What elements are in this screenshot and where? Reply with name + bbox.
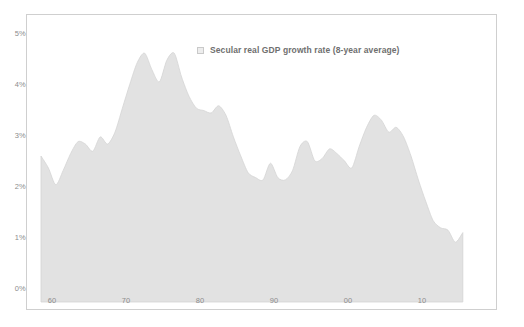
y-axis-tick-3: 3% [2, 131, 26, 140]
x-axis-tick-00: 00 [336, 296, 360, 305]
y-axis-tick-4: 4% [2, 80, 26, 89]
area-chart-svg [27, 15, 496, 309]
x-axis-tick-90: 90 [262, 296, 286, 305]
x-axis-tick-10: 10 [410, 296, 434, 305]
area-series-secular-gdp-growth [41, 53, 463, 302]
chart-plot-frame [26, 14, 497, 310]
y-axis-tick-5: 5% [2, 29, 26, 38]
y-axis-tick-0: 0% [2, 284, 26, 293]
chart-legend: Secular real GDP growth rate (8-year ave… [197, 45, 400, 55]
x-axis-tick-70: 70 [114, 296, 138, 305]
x-axis-tick-60: 60 [40, 296, 64, 305]
chart-figure: 5% 4% 3% 2% 1% 0% 60 70 80 90 00 10 Secu… [0, 0, 524, 327]
legend-label: Secular real GDP growth rate (8-year ave… [210, 45, 400, 55]
y-axis-tick-1: 1% [2, 233, 26, 242]
legend-swatch-icon [197, 47, 204, 54]
x-axis-tick-80: 80 [188, 296, 212, 305]
y-axis-tick-2: 2% [2, 182, 26, 191]
